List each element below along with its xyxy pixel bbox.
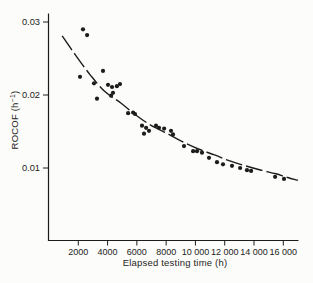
- axes: [49, 14, 299, 241]
- y-tick-label: 0.01: [22, 163, 40, 173]
- y-axis-title-text: ROCOF (h: [9, 102, 20, 149]
- x-tick-label: 16 000: [270, 247, 298, 257]
- scatter-point: [92, 81, 96, 85]
- scatter-point: [238, 166, 242, 170]
- fit-curve: [62, 36, 298, 181]
- x-tick-label: 12 000: [211, 247, 239, 257]
- scatter-point: [282, 177, 286, 181]
- rocof-chart: 0.010.020.03200040006000800010 00012 000…: [0, 0, 313, 283]
- scatter-point: [118, 82, 122, 86]
- scatter-point: [200, 151, 204, 155]
- x-axis-title: Elapsed testing time (h): [123, 257, 228, 268]
- scatter-point: [169, 129, 173, 133]
- scatter-point: [140, 124, 144, 128]
- scatter-point: [101, 69, 105, 73]
- scatter-point: [195, 149, 199, 153]
- scatter-point: [110, 85, 114, 89]
- scatter-point: [249, 169, 253, 173]
- scatter-point: [157, 126, 161, 130]
- scatter-point: [85, 33, 89, 37]
- scatter-point: [171, 132, 175, 136]
- scatter-point: [147, 129, 151, 133]
- scatter-point: [245, 168, 249, 172]
- y-tick-label: 0.02: [22, 90, 40, 100]
- scatter-point: [142, 132, 146, 136]
- y-tick-label: 0.03: [22, 17, 40, 27]
- scatter-point: [106, 83, 110, 87]
- scatter-point: [207, 156, 211, 160]
- x-tick-label: 4000: [98, 247, 118, 257]
- plot-svg: 0.010.020.03200040006000800010 00012 000…: [0, 0, 313, 283]
- scatter-point: [230, 164, 234, 168]
- scatter-point: [126, 111, 130, 115]
- scatter-point: [133, 112, 137, 116]
- x-tick-label: 2000: [68, 247, 88, 257]
- x-tick-label: 14 000: [240, 247, 268, 257]
- scatter-point: [95, 97, 99, 101]
- scatter-point: [191, 149, 195, 153]
- y-axis-title-superscript: −1: [8, 94, 15, 102]
- scatter-point: [215, 160, 219, 164]
- scatter-point: [78, 75, 82, 79]
- scatter-point: [162, 127, 166, 131]
- y-axis-title: ROCOF (h−1): [9, 91, 20, 150]
- scatter-point: [182, 144, 186, 148]
- scatter-point: [221, 162, 225, 166]
- x-tick-label: 6000: [127, 247, 147, 257]
- scatter-point: [111, 91, 115, 95]
- scatter-point: [81, 27, 85, 31]
- x-tick-label: 10 000: [182, 247, 210, 257]
- scatter-point: [273, 175, 277, 179]
- x-tick-label: 8000: [156, 247, 176, 257]
